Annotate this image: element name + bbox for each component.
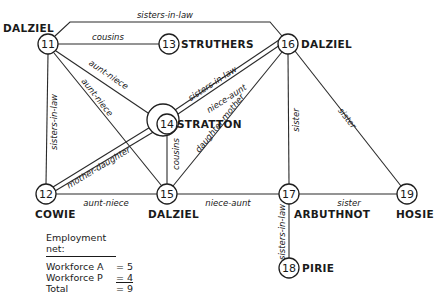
- legend-title: Employment net:: [46, 232, 116, 257]
- node-15: 15: [157, 184, 177, 204]
- node-12: 12: [36, 184, 56, 204]
- svg-text:18: 18: [282, 262, 296, 275]
- svg-text:13: 13: [162, 38, 176, 51]
- legend-value: = 9: [116, 283, 146, 294]
- legend-label: Workforce A: [46, 261, 116, 272]
- node-name-15: DALZIEL: [148, 208, 199, 220]
- edge-label-11-12: sisters-in-law: [49, 94, 59, 150]
- edge-label-12-16: mother-daughter: [65, 144, 133, 190]
- edge-label-11-15: aunt-niece: [79, 76, 115, 118]
- node-14: 14: [147, 104, 179, 136]
- node-16: 16: [278, 34, 298, 54]
- svg-text:14: 14: [160, 118, 174, 131]
- edge-11-12: [46, 54, 48, 184]
- svg-text:16: 16: [281, 38, 295, 51]
- legend-row-workforce-a: Workforce A = 5: [46, 261, 146, 272]
- edge-label-17-18: sisters-in-law: [277, 204, 287, 260]
- node-name-17: ARBUTHNOT: [294, 208, 371, 220]
- node-18: 18: [279, 258, 299, 278]
- edge-label-12-15: aunt-niece: [83, 198, 128, 208]
- node-name-18: PIRIE: [302, 262, 334, 274]
- legend-label: Workforce P: [46, 272, 116, 283]
- svg-text:15: 15: [160, 188, 174, 201]
- svg-text:11: 11: [41, 38, 55, 51]
- node-name-16: DALZIEL: [301, 38, 352, 50]
- legend-label: Total: [46, 283, 116, 294]
- employment-legend: Employment net: Workforce A = 5 Workforc…: [46, 232, 146, 294]
- legend-row-total: Total = 9: [46, 283, 146, 294]
- node-19: 19: [397, 184, 417, 204]
- node-name-19: HOSIE: [396, 208, 434, 220]
- edge-label-17-19: sister: [337, 198, 361, 208]
- edge-label-11-13: cousins: [92, 32, 124, 42]
- legend-row-workforce-p: Workforce P = 4: [46, 272, 146, 283]
- node-13: 13: [159, 34, 179, 54]
- node-17: 17: [279, 184, 299, 204]
- node-name-14: STRATTON: [177, 118, 242, 130]
- svg-text:12: 12: [39, 188, 53, 201]
- edge-label-15-17: niece-aunt: [205, 198, 251, 208]
- edge-label-14-15: cousins: [171, 137, 181, 169]
- node-11: 11: [38, 34, 58, 54]
- edge-label-11-16: sisters-in-law: [137, 10, 193, 20]
- node-name-12: COWIE: [35, 208, 76, 220]
- edge-12-16-a: [53, 126, 152, 187]
- svg-text:17: 17: [282, 188, 296, 201]
- edge-16-17: [288, 54, 289, 184]
- legend-value: = 4: [116, 272, 146, 283]
- edge-label-16-17: sister: [291, 108, 301, 132]
- svg-text:19: 19: [400, 188, 414, 201]
- legend-value: = 5: [116, 261, 146, 272]
- node-name-13: STRUTHERS: [181, 38, 254, 50]
- node-name-11: DALZIEL: [3, 22, 54, 34]
